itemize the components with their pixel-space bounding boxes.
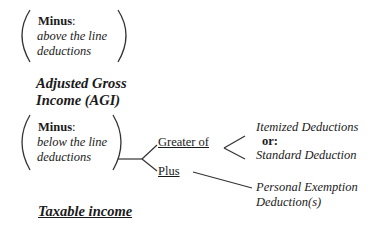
box2-minus: Minus — [38, 120, 72, 134]
box1-line1: above the line — [37, 29, 107, 44]
box1-colon: : — [72, 14, 75, 28]
box2-line1: below the line — [37, 135, 107, 150]
taxable-income-result: Taxable income — [38, 203, 132, 220]
exemption-line1: Personal Exemption — [256, 180, 358, 195]
agi-line1: Adjusted Gross — [36, 75, 127, 92]
branch-greater-of: Greater of — [158, 135, 209, 150]
agi-line2: Income (AGI) — [36, 92, 120, 109]
option-itemized: Itemized Deductions — [256, 120, 358, 135]
option-or: or: — [262, 134, 278, 149]
option-standard: Standard Deduction — [256, 148, 357, 163]
box1-label: Minus: — [38, 14, 76, 29]
branch-plus: Plus — [158, 164, 180, 179]
box2-line2: deductions — [37, 150, 91, 165]
box2-colon: : — [72, 120, 75, 134]
box2-label: Minus: — [38, 120, 76, 135]
box1-minus: Minus — [38, 14, 72, 28]
box1-line2: deductions — [37, 44, 91, 59]
exemption-line2: Deduction(s) — [256, 195, 321, 210]
